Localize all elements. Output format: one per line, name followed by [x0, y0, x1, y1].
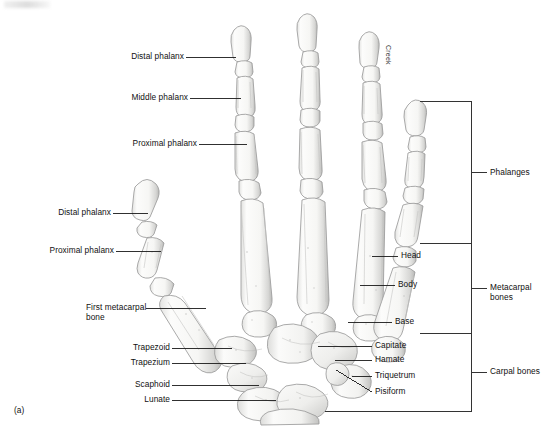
bracket-label-metacarpal-bones: Metacarpal bones — [490, 282, 548, 302]
label-text: Distal phalanx — [58, 207, 111, 217]
label-scaphoid: Scaphoid — [90, 379, 170, 389]
label-text: Metacarpal bones — [490, 282, 532, 302]
label-text: Proximal phalanx — [50, 245, 114, 255]
label-text: Body — [398, 279, 417, 289]
label-base: Base — [395, 316, 414, 326]
label-hamate: Hamate — [375, 354, 404, 364]
hand-bones-figure: Distal phalanx Middle phalanx Proximal p… — [0, 0, 553, 429]
label-text: Capitate — [375, 340, 406, 350]
label-first-metacarpal-bone: First metacarpal bone — [86, 302, 150, 322]
label-text: Lunate — [144, 394, 170, 404]
label-text: Pisiform — [375, 386, 405, 396]
label-lunate: Lunate — [90, 394, 170, 404]
label-proximal-phalanx-finger: Proximal phalanx — [66, 138, 197, 148]
label-text: Base — [395, 316, 414, 326]
label-text: Phalanges — [490, 167, 530, 177]
panel-label: (a) — [14, 405, 24, 415]
label-text: Carpal bones — [490, 366, 540, 376]
label-text: Head — [401, 250, 421, 260]
label-trapezium: Trapezium — [90, 357, 170, 367]
label-text: Distal phalanx — [131, 51, 184, 61]
panel-label-text: (a) — [14, 405, 24, 415]
label-distal-phalanx-finger: Distal phalanx — [66, 51, 184, 61]
label-trapezoid: Trapezoid — [90, 342, 170, 352]
label-text: Triquetrum — [375, 370, 415, 380]
label-text: Scaphoid — [135, 379, 170, 389]
label-distal-phalanx-thumb: Distal phalanx — [0, 207, 111, 217]
bracket-label-phalanges: Phalanges — [490, 167, 530, 177]
bracket-label-carpal-bones: Carpal bones — [490, 366, 548, 376]
label-middle-phalanx-finger: Middle phalanx — [66, 92, 188, 102]
label-text: Trapezium — [131, 357, 170, 367]
label-text: First metacarpal bone — [86, 302, 146, 322]
label-triquetrum: Triquetrum — [375, 370, 415, 380]
label-body: Body — [398, 279, 417, 289]
label-text: Middle phalanx — [131, 92, 188, 102]
label-text: Trapezoid — [133, 342, 170, 352]
label-capitate: Capitate — [375, 340, 406, 350]
label-text: Proximal phalanx — [133, 138, 197, 148]
label-text: Hamate — [375, 354, 404, 364]
artist-signature: Creek — [385, 45, 392, 65]
signature-text: Creek — [385, 45, 392, 65]
label-head: Head — [401, 250, 421, 260]
label-pisiform: Pisiform — [375, 386, 405, 396]
label-proximal-phalanx-thumb: Proximal phalanx — [0, 245, 114, 255]
